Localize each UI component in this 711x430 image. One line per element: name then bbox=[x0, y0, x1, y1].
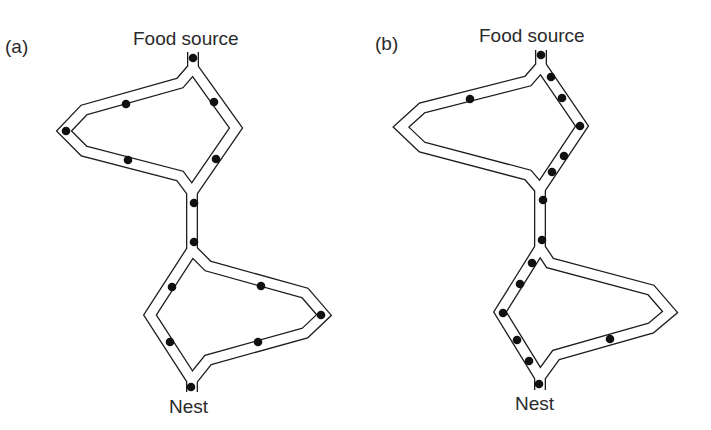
ant-icon bbox=[257, 282, 266, 291]
bridge-diagram-a bbox=[0, 0, 355, 430]
ant-icon bbox=[537, 51, 546, 60]
ant-icon bbox=[513, 336, 522, 345]
ant-icon bbox=[548, 168, 557, 177]
ant-icon bbox=[168, 283, 177, 292]
panel-b: (b) Food source Nest bbox=[348, 0, 703, 430]
ant-icon bbox=[187, 383, 196, 392]
ant-icon bbox=[190, 238, 199, 247]
ant-icon bbox=[528, 259, 537, 268]
ant-icon bbox=[560, 152, 569, 161]
panel-a: (a) Food source Nest bbox=[0, 0, 355, 430]
ant-icon bbox=[212, 155, 221, 164]
ant-icon bbox=[516, 280, 525, 289]
ant-icon bbox=[466, 95, 475, 104]
ant-icon bbox=[576, 122, 585, 131]
ant-icon bbox=[122, 100, 131, 109]
bridge-paths-a bbox=[64, 52, 324, 392]
ant-icon bbox=[124, 156, 133, 165]
ant-icon bbox=[547, 73, 556, 82]
ant-icon bbox=[166, 338, 175, 347]
ant-icon bbox=[62, 127, 71, 136]
ant-icon bbox=[254, 338, 263, 347]
ant-icon bbox=[535, 380, 544, 389]
ant-icon bbox=[606, 335, 615, 344]
ant-icon bbox=[190, 199, 199, 208]
ant-icon bbox=[499, 309, 508, 318]
bridge-paths-b bbox=[401, 50, 670, 390]
ant-icon bbox=[538, 236, 547, 245]
ant-icon bbox=[210, 98, 219, 107]
ant-icon bbox=[525, 357, 534, 366]
bridge-diagram-b bbox=[348, 0, 711, 430]
ant-icon bbox=[558, 94, 567, 103]
ant-icon bbox=[189, 54, 198, 63]
ant-icon bbox=[539, 196, 548, 205]
ant-icon bbox=[317, 311, 326, 320]
